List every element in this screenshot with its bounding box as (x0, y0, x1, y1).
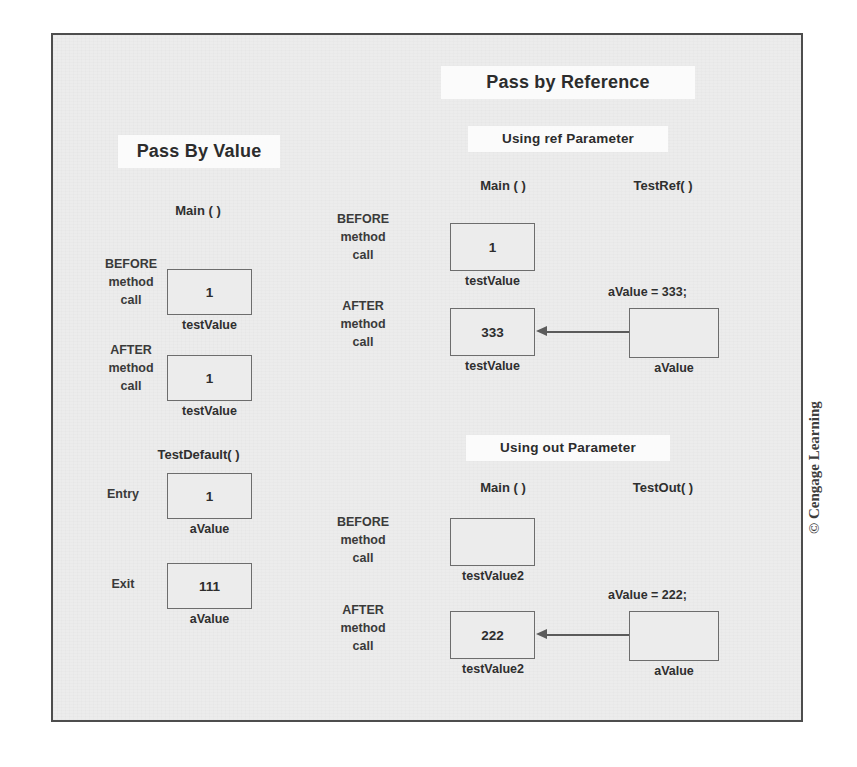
using-ref-parameter-subtitle: Using ref Parameter (468, 126, 668, 152)
out-after-testvalue2-box: 222 (450, 611, 535, 659)
ref-after-label: AFTER method call (319, 297, 407, 351)
left-before-testvalue-value: 1 (206, 285, 214, 300)
pass-by-reference-title: Pass by Reference (441, 66, 695, 99)
figure-frame: Pass By Value Main ( ) BEFORE method cal… (51, 33, 803, 722)
left-entry-avalue-name: aValue (163, 522, 256, 536)
ref-after-label-line1: AFTER (319, 297, 407, 315)
out-before-testvalue2-box (450, 518, 535, 566)
left-entry-avalue-box: 1 (167, 473, 252, 519)
ref-arrow-line (547, 331, 629, 333)
left-before-testvalue-box: 1 (167, 269, 252, 315)
out-before-label: BEFORE method call (319, 513, 407, 567)
ref-before-label-line2: method (319, 228, 407, 246)
copyright-credit: © Cengage Learning (806, 304, 823, 534)
out-assignment-statement: aValue = 222; (608, 588, 687, 602)
out-before-label-line1: BEFORE (319, 513, 407, 531)
left-entry-avalue-value: 1 (206, 489, 214, 504)
left-entry-label: Entry (87, 485, 159, 503)
out-callee-header: TestOut( ) (598, 480, 728, 495)
left-exit-avalue-name: aValue (163, 612, 256, 626)
left-after-label: AFTER method call (87, 341, 175, 395)
left-exit-label: Exit (87, 575, 159, 593)
left-after-label-line1: AFTER (87, 341, 175, 359)
left-exit-avalue-box: 111 (167, 563, 252, 609)
left-testdefault-method-header: TestDefault( ) (126, 447, 271, 462)
ref-callee-header: TestRef( ) (598, 178, 728, 193)
out-avalue-box (629, 611, 719, 661)
out-before-label-line3: call (319, 549, 407, 567)
page-root: Pass By Value Main ( ) BEFORE method cal… (0, 0, 857, 767)
left-main-method-header: Main ( ) (138, 203, 258, 218)
ref-after-testvalue-value: 333 (481, 325, 504, 340)
left-before-label-line1: BEFORE (87, 255, 175, 273)
out-after-label-line2: method (319, 619, 407, 637)
out-caller-header: Main ( ) (443, 480, 563, 495)
ref-before-label-line3: call (319, 246, 407, 264)
ref-assignment-statement: aValue = 333; (608, 285, 687, 299)
ref-before-testvalue-name: testValue (442, 274, 543, 288)
left-after-label-line2: method (87, 359, 175, 377)
out-after-label: AFTER method call (319, 601, 407, 655)
ref-avalue-box (629, 308, 719, 358)
ref-caller-header: Main ( ) (443, 178, 563, 193)
out-arrow-head-icon (536, 629, 547, 639)
ref-before-label-line1: BEFORE (319, 210, 407, 228)
left-after-testvalue-name: testValue (159, 404, 260, 418)
left-before-label-line2: method (87, 273, 175, 291)
pass-by-value-title: Pass By Value (118, 135, 280, 168)
ref-avalue-name: aValue (627, 361, 721, 375)
left-after-testvalue-box: 1 (167, 355, 252, 401)
left-before-testvalue-name: testValue (159, 318, 260, 332)
out-after-label-line1: AFTER (319, 601, 407, 619)
ref-after-testvalue-box: 333 (450, 308, 535, 356)
ref-after-label-line3: call (319, 333, 407, 351)
out-after-testvalue2-name: testValue2 (439, 662, 547, 676)
left-after-label-line3: call (87, 377, 175, 395)
out-before-testvalue2-name: testValue2 (439, 569, 547, 583)
out-arrow-line (547, 634, 629, 636)
ref-arrow-head-icon (536, 326, 547, 336)
out-after-label-line3: call (319, 637, 407, 655)
out-avalue-name: aValue (627, 664, 721, 678)
ref-before-testvalue-box: 1 (450, 223, 535, 271)
left-after-testvalue-value: 1 (206, 371, 214, 386)
ref-before-label: BEFORE method call (319, 210, 407, 264)
left-before-label: BEFORE method call (87, 255, 175, 309)
out-before-label-line2: method (319, 531, 407, 549)
left-before-label-line3: call (87, 291, 175, 309)
ref-after-label-line2: method (319, 315, 407, 333)
ref-before-testvalue-value: 1 (489, 240, 497, 255)
using-out-parameter-subtitle: Using out Parameter (466, 435, 670, 461)
ref-after-testvalue-name: testValue (442, 359, 543, 373)
left-exit-avalue-value: 111 (199, 579, 220, 594)
out-after-testvalue2-value: 222 (481, 628, 504, 643)
